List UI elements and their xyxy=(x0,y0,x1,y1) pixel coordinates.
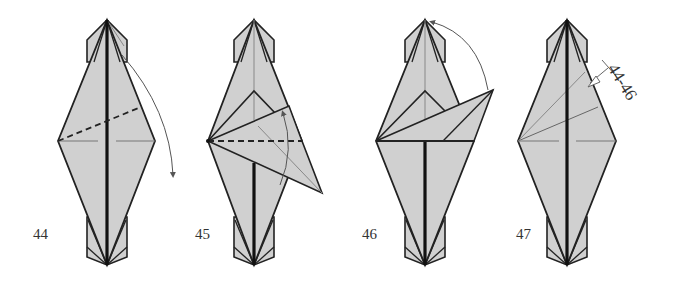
step-44-diagram xyxy=(58,20,173,265)
origami-diagram: 44 45 46 47 44-46 xyxy=(0,0,680,283)
step-number-47: 47 xyxy=(516,226,531,243)
step-47-diagram xyxy=(518,20,616,265)
step-number-44: 44 xyxy=(33,226,48,243)
step-46-diagram xyxy=(376,20,493,265)
diagram-canvas xyxy=(0,0,680,283)
step-number-45: 45 xyxy=(195,226,210,243)
step-45-diagram xyxy=(206,20,322,265)
step-number-46: 46 xyxy=(362,226,377,243)
